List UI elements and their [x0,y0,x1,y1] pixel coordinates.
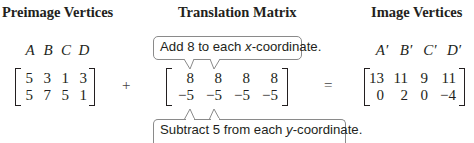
preimage-vertex-labels: A B C D [21,42,93,59]
matrix-cell: −5 [194,87,222,104]
matrix-cell: 8 [194,70,222,87]
translation-matrix: 8 8 8 8 −5 −5 −5 −5 [166,68,288,106]
equals-operator: = [324,77,332,94]
vertex-label: D′ [442,42,466,59]
callout-pointer-mask [185,118,227,121]
matrix-cell: −5 [222,87,250,104]
matrix-row-y: 0 2 0 −4 [366,87,465,104]
matrix-cell: 8 [222,70,250,87]
callout-var: y [286,122,293,137]
preimage-heading: Preimage Vertices [2,4,113,21]
vertex-label: D [75,42,93,59]
matrix-row-y: −5 −5 −5 −5 [168,87,288,104]
matrix-cell: 11 [428,70,456,87]
matrix-cell: 5 [51,87,69,104]
matrix-cell: 7 [33,87,51,104]
matrix-cell: −4 [428,87,456,104]
vertex-label: B [39,42,57,59]
matrix-row-x: 5 3 1 3 [19,70,95,87]
matrix-cell: 8 [250,70,278,87]
image-heading: Image Vertices [371,4,462,21]
callout-add-x: Add 8 to each x-coordinate. [153,36,302,60]
matrix-row-x: 8 8 8 8 [168,70,288,87]
matrix-cell: 13 [366,70,384,87]
vertex-label: A′ [370,42,394,59]
plus-operator: + [122,77,130,94]
matrix-cell: 3 [33,70,51,87]
matrix-cell: −5 [250,87,278,104]
matrix-cell: 5 [19,87,33,104]
vertex-label: B′ [394,42,418,59]
image-vertex-labels: A′ B′ C′ D′ [370,42,466,59]
vertex-label: A [21,42,39,59]
callout-text: -coordinate. [252,39,322,54]
matrix-cell: 5 [19,70,33,87]
image-matrix: 13 11 9 11 0 2 0 −4 [364,68,465,106]
preimage-matrix: 5 3 1 3 5 7 5 1 [15,68,95,106]
matrix-row-x: 13 11 9 11 [366,70,465,87]
matrix-cell: 9 [408,70,428,87]
matrix-cell: 1 [69,87,87,104]
vertex-label: C [57,42,75,59]
callout-text: Subtract 5 from each [160,122,286,137]
matrix-cell: 1 [51,70,69,87]
matrix-cell: 2 [384,87,408,104]
matrix-row-y: 5 7 5 1 [19,87,95,104]
translation-heading: Translation Matrix [178,4,297,21]
matrix-cell: 0 [366,87,384,104]
callout-var: x [245,39,252,54]
callout-text: -coordinate. [293,122,363,137]
matrix-cell: 3 [69,70,87,87]
matrix-cell: 0 [408,87,428,104]
matrix-cell: 8 [168,70,194,87]
matrix-cell: 11 [384,70,408,87]
callout-subtract-y: Subtract 5 from each y-coordinate. [153,119,346,143]
callout-text: Add 8 to each [160,39,245,54]
vertex-label: C′ [418,42,442,59]
matrix-cell: −5 [168,87,194,104]
